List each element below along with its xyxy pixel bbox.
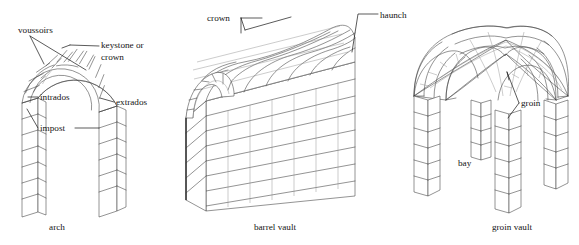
label-extrados: extrados: [116, 97, 148, 107]
label-haunch: haunch: [380, 10, 407, 20]
caption-arch: arch: [49, 222, 65, 232]
label-impost: impost: [40, 123, 65, 133]
label-crown: crown: [207, 13, 230, 23]
label-groin: groin: [521, 98, 541, 108]
label-voussoirs: voussoirs: [18, 25, 53, 35]
arch-right-pier: [99, 106, 126, 217]
groin-pier-right: [544, 100, 568, 189]
label-keystone-or-crown-line2: crown: [101, 52, 124, 62]
caption-groin-vault: groin vault: [492, 222, 533, 232]
caption-barrel-vault: barrel vault: [254, 222, 297, 232]
label-keystone-or-crown-line1: keystone or: [101, 40, 144, 50]
label-bay: bay: [458, 158, 472, 168]
architecture-diagram: voussoirs keystone or crown intrados ext…: [0, 0, 579, 245]
groin-pier-front: [495, 110, 521, 213]
label-intrados: intrados: [40, 92, 70, 102]
arch-left-pier: [22, 98, 46, 217]
groin-pier-rear: [471, 100, 491, 160]
groin-pier-left: [414, 96, 440, 196]
